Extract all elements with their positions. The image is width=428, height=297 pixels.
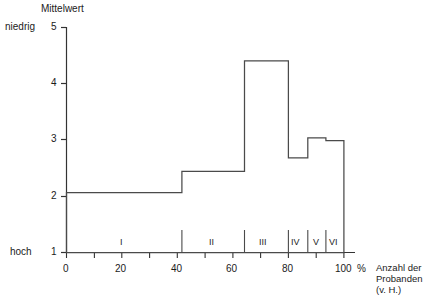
x-axis-title-line1: Anzahl der bbox=[376, 262, 421, 273]
segment-label-VI: VI bbox=[329, 238, 338, 247]
x-tick-marks bbox=[67, 253, 344, 259]
y-tick-label-1: 1 bbox=[51, 247, 57, 257]
y-anchor-high-label: niedrig bbox=[5, 22, 35, 32]
y-tick-label-5: 5 bbox=[51, 22, 57, 32]
x-tick-label-80: 80 bbox=[282, 264, 293, 274]
segment-label-II: II bbox=[209, 238, 214, 247]
x-axis-title-line3: (v. H.) bbox=[376, 284, 401, 295]
x-tick-label-60: 60 bbox=[226, 264, 237, 274]
bar-series bbox=[67, 61, 344, 253]
chart-title: Mittelwert bbox=[41, 4, 84, 14]
segment-label-IV: IV bbox=[291, 238, 300, 247]
y-tick-label-4: 4 bbox=[51, 78, 57, 88]
bar-step-path bbox=[67, 61, 344, 253]
x-unit-percent: % bbox=[357, 264, 366, 274]
y-anchor-low-label: hoch bbox=[10, 247, 32, 257]
y-tick-label-2: 2 bbox=[51, 191, 57, 201]
segment-label-III: III bbox=[259, 238, 267, 247]
chart-canvas bbox=[0, 0, 428, 297]
y-tick-marks bbox=[61, 28, 66, 253]
x-tick-label-0: 0 bbox=[63, 264, 69, 274]
y-tick-label-3: 3 bbox=[51, 134, 57, 144]
x-tick-label-40: 40 bbox=[171, 264, 182, 274]
segment-label-V: V bbox=[313, 238, 319, 247]
chart-figure: Mittelwert niedrig hoch 5 4 3 2 1 0 20 4… bbox=[0, 0, 428, 297]
segment-label-I: I bbox=[120, 238, 123, 247]
x-tick-label-20: 20 bbox=[115, 264, 126, 274]
x-tick-label-100: 100 bbox=[335, 264, 352, 274]
segment-dividers bbox=[182, 230, 326, 253]
x-axis-title-line2: Probanden bbox=[376, 273, 422, 284]
